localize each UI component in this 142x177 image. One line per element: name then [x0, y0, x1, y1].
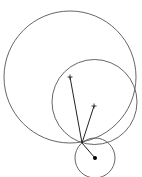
circles-group — [4, 11, 137, 177]
radius-to-small-center — [82, 143, 95, 158]
medium-circle-center-plus-icon — [92, 104, 97, 109]
small-circle-center-dot — [93, 156, 97, 160]
circles-diagram — [0, 0, 142, 177]
radius-segments-group — [70, 77, 95, 158]
radius-to-medium-center — [82, 106, 94, 143]
center-markers-group — [68, 75, 97, 109]
large-circle-center-plus-icon — [68, 75, 73, 80]
medium-circle — [52, 60, 137, 145]
center-dot-group — [93, 156, 97, 160]
radius-to-large-center — [70, 77, 82, 143]
